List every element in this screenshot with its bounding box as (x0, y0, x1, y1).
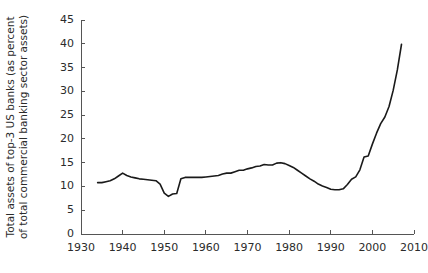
y-tick-label: 30 (60, 84, 74, 97)
y-tick-label: 35 (60, 61, 74, 74)
y-axis-label-line1: Total assets of top-3 US banks (as perce… (4, 17, 16, 239)
y-axis: 051015202530354045 (60, 13, 85, 240)
axis-title-group: Total assets of top-3 US banks (as perce… (4, 15, 29, 239)
x-tick-label: 1990 (317, 241, 345, 254)
y-axis-label-line2: of total commercial banking sector asset… (17, 15, 29, 239)
x-tick-label: 2000 (358, 241, 386, 254)
line-chart: Total assets of top-3 US banks (as perce… (0, 0, 428, 273)
x-tick-label: 1930 (67, 241, 95, 254)
x-tick-label: 1980 (275, 241, 303, 254)
x-tick-label: 1950 (150, 241, 178, 254)
data-line-series-0 (98, 44, 402, 196)
y-tick-label: 25 (60, 108, 74, 121)
y-tick-label: 15 (60, 156, 74, 169)
y-tick-label: 20 (60, 132, 74, 145)
x-axis: 193019401950196019701980199020002010 (67, 230, 428, 254)
x-tick-label: 1940 (109, 241, 137, 254)
y-tick-label: 10 (60, 179, 74, 192)
y-tick-label: 40 (60, 37, 74, 50)
y-tick-label: 0 (67, 227, 74, 240)
x-tick-label: 1970 (234, 241, 262, 254)
x-tick-label: 1960 (192, 241, 220, 254)
chart-figure: Total assets of top-3 US banks (as perce… (0, 0, 428, 273)
y-tick-label: 5 (67, 203, 74, 216)
y-tick-label: 45 (60, 13, 74, 26)
x-tick-label: 2010 (400, 241, 428, 254)
